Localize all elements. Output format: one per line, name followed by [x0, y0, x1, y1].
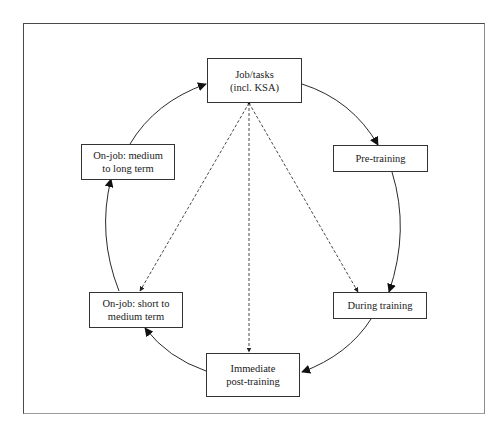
edge-pretraining-to-during	[389, 172, 400, 292]
node-job-tasks: Job/tasks (incl. KSA)	[207, 58, 302, 103]
edge-job-to-pretraining	[302, 84, 378, 145]
node-pre-training: Pre-training	[333, 145, 428, 172]
node-during-training: During training	[333, 292, 427, 319]
dashed-edge-job-to-short	[140, 103, 249, 291]
node-on-job-short-to-medium: On-job: short to medium term	[89, 292, 183, 328]
edge-short-to-medium	[106, 179, 119, 291]
dashed-edge-job-to-during	[249, 103, 358, 292]
edge-post-to-short	[145, 328, 206, 371]
node-immediate-post-training: Immediate post-training	[206, 353, 300, 397]
node-on-job-medium-to-long: On-job: medium to long term	[81, 144, 175, 180]
edge-medium-to-job	[130, 84, 206, 144]
edge-during-to-post	[302, 319, 371, 372]
